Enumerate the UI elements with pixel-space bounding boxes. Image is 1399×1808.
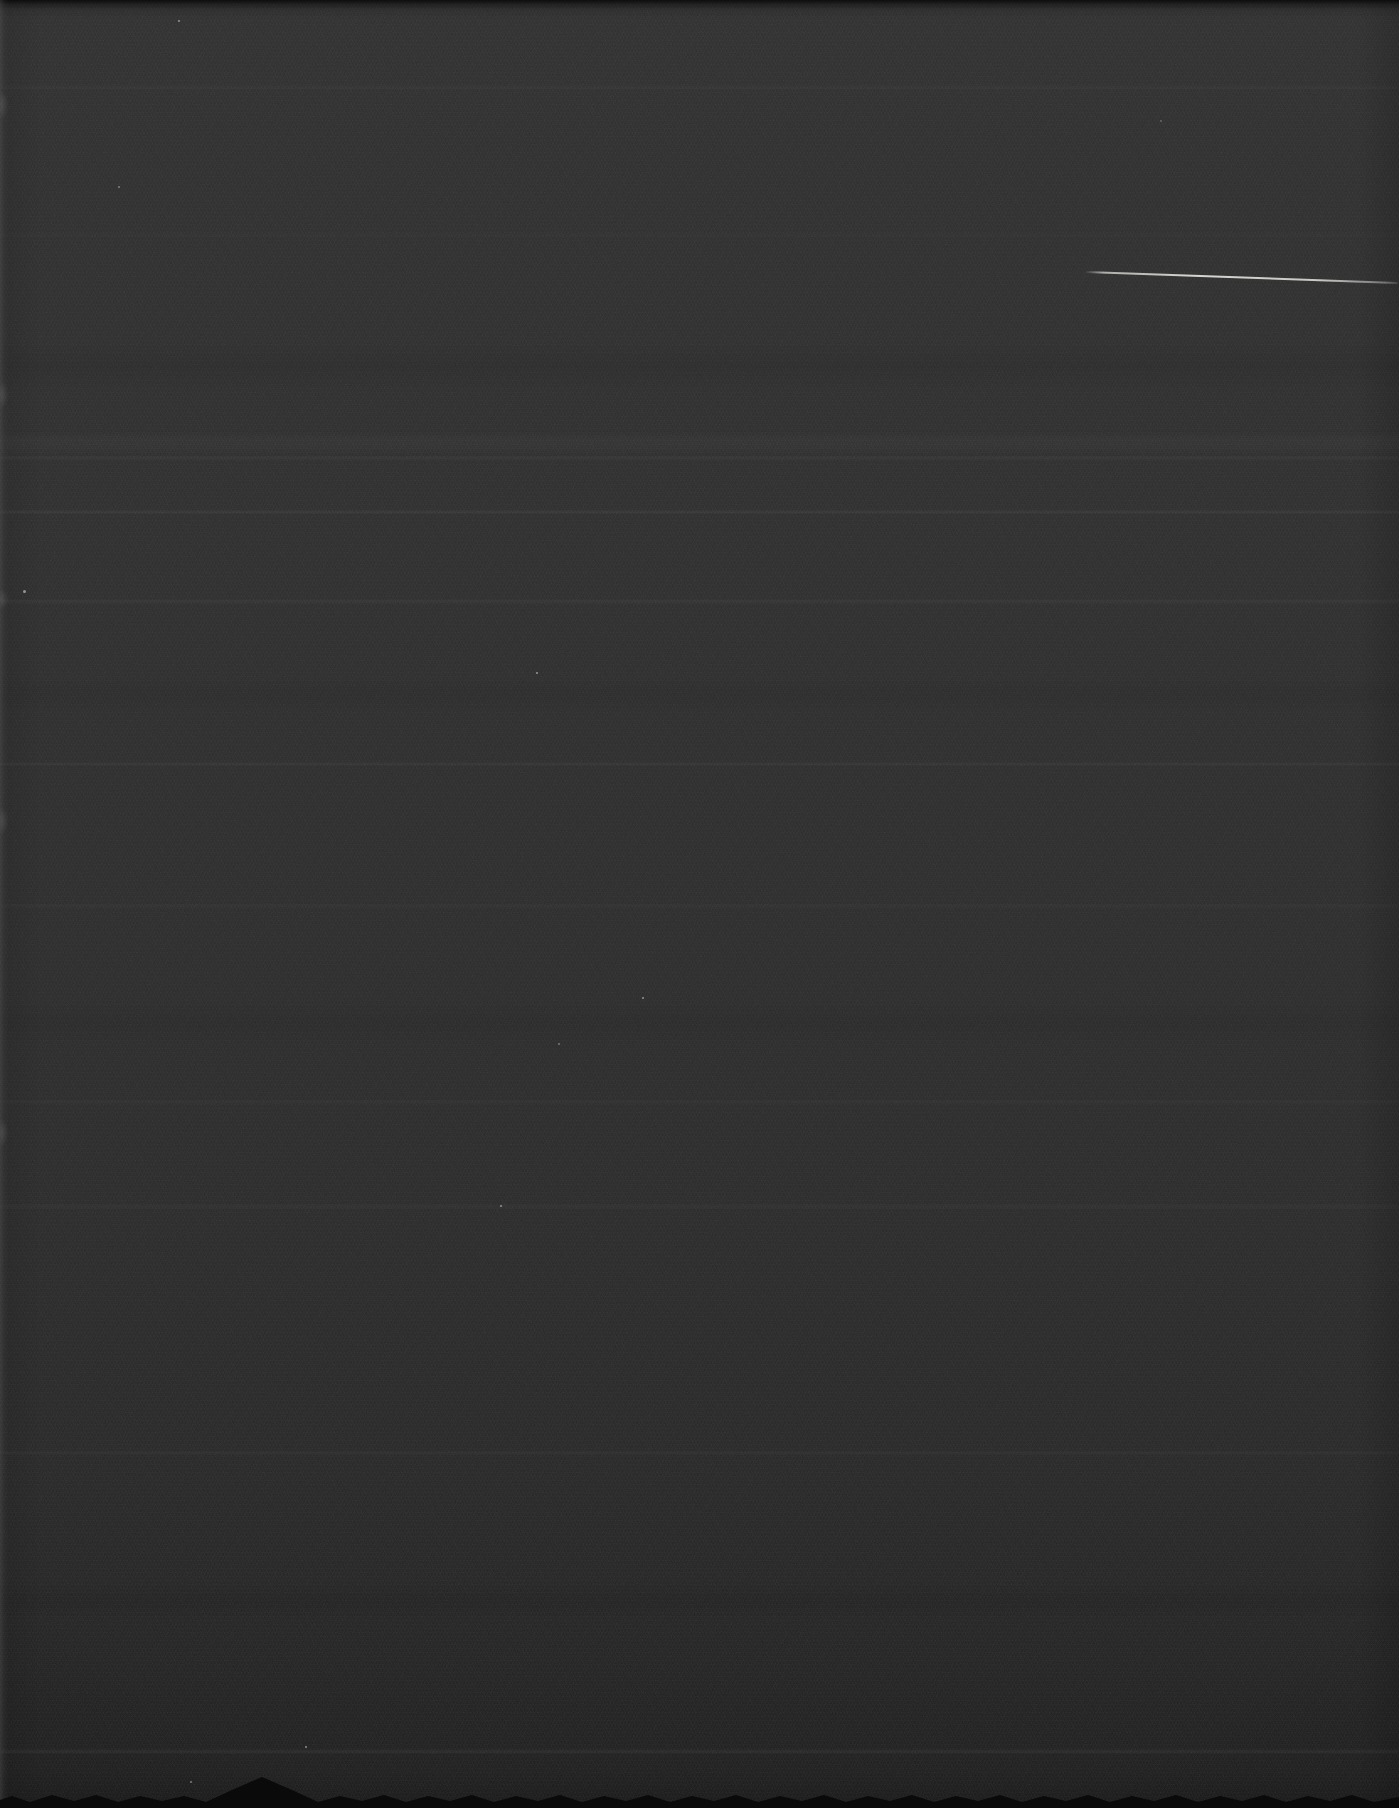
horizontal-streak xyxy=(0,905,1399,907)
paper-weave-texture xyxy=(0,0,1399,1808)
dust-speck xyxy=(500,1205,502,1207)
left-edge-highlight-blob xyxy=(0,90,9,120)
horizontal-streak xyxy=(0,345,1399,387)
left-edge-highlight-blob xyxy=(0,588,9,610)
left-edge-highlight-blob xyxy=(0,806,9,836)
horizontal-streak xyxy=(0,511,1399,513)
horizontal-streak xyxy=(0,680,1399,710)
scratch-line xyxy=(1085,271,1398,284)
horizontal-streak xyxy=(0,763,1399,765)
page-top-edge xyxy=(0,0,1399,10)
dust-speck xyxy=(536,672,538,674)
page-left-edge-highlight xyxy=(0,0,9,1808)
page-base-tone xyxy=(0,0,1399,1808)
dust-speck xyxy=(118,186,120,188)
dust-speck xyxy=(190,1781,192,1783)
horizontal-banding xyxy=(0,0,1399,1808)
horizontal-streak xyxy=(0,1101,1399,1103)
deckled-bottom-edge xyxy=(0,1768,1399,1808)
horizontal-streak xyxy=(0,457,1399,459)
horizontal-streak xyxy=(0,86,1399,89)
horizontal-streak xyxy=(0,234,1399,236)
dust-speck xyxy=(642,997,644,999)
dust-speck xyxy=(558,1043,560,1045)
vignette-shading xyxy=(0,0,1399,1808)
horizontal-streak xyxy=(0,1205,1399,1208)
horizontal-streak xyxy=(0,1005,1399,1041)
dust-speck xyxy=(23,590,26,593)
horizontal-streak xyxy=(0,1452,1399,1454)
left-edge-highlight-blob xyxy=(0,380,9,410)
left-edge-highlight-blob xyxy=(0,1118,9,1148)
dust-specks xyxy=(0,0,1399,1808)
scanned-black-page xyxy=(0,0,1399,1808)
horizontal-streak xyxy=(0,1585,1399,1617)
dust-speck xyxy=(178,20,180,22)
horizontal-streak xyxy=(0,430,1399,456)
dust-speck xyxy=(1160,120,1162,122)
film-grain-texture xyxy=(0,0,1399,1808)
horizontal-streak xyxy=(0,600,1399,603)
dust-speck xyxy=(305,1746,307,1748)
horizontal-streak xyxy=(0,1750,1399,1753)
